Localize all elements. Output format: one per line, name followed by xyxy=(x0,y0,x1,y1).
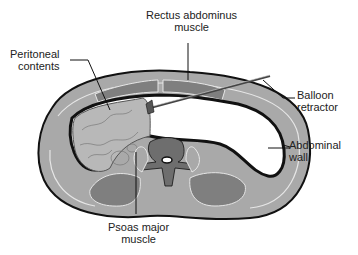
label-abdominal-wall: Abdominal wall xyxy=(289,139,341,163)
label-rectus-abdominus: Rectus abdominus muscle xyxy=(146,9,237,33)
label-balloon-retractor: Balloon retractor xyxy=(297,89,338,113)
anatomy-diagram xyxy=(0,0,358,255)
spinal-canal xyxy=(162,157,172,163)
label-psoas-major: Psoas major muscle xyxy=(108,221,169,245)
label-peritoneal-contents: Peritoneal contents xyxy=(10,48,60,72)
paraspinal-muscle-right xyxy=(190,173,246,206)
